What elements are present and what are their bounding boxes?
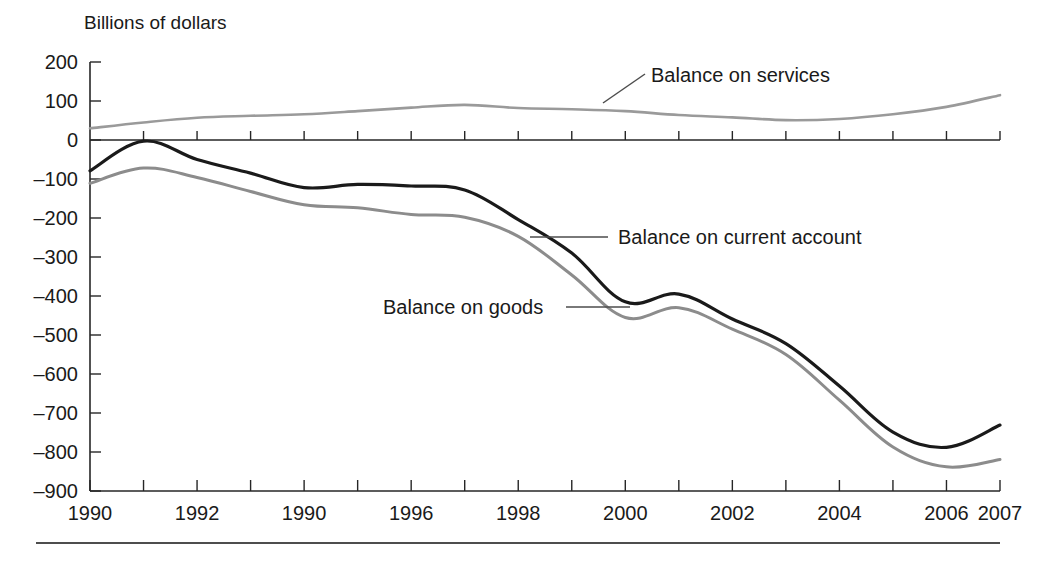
annotation-label-balance-on-current-account: Balance on current account xyxy=(618,226,862,248)
y-tick-label: –100 xyxy=(34,168,79,190)
annotation-label-balance-on-services: Balance on services xyxy=(651,64,830,86)
axis-title-group: Billions of dollars xyxy=(84,12,227,33)
x-tick-label: 1992 xyxy=(175,502,220,524)
y-tick-label: –400 xyxy=(34,285,79,307)
y-tick-label: –300 xyxy=(34,246,79,268)
x-tick-label: 2004 xyxy=(817,502,862,524)
y-tick-label: –600 xyxy=(34,363,79,385)
y-tick-label: 0 xyxy=(67,129,78,151)
data-series-group: Balance on servicesBalance on current ac… xyxy=(90,95,1000,467)
y-tick-label: –500 xyxy=(34,324,79,346)
annotation-label-balance-on-goods: Balance on goods xyxy=(383,296,543,318)
x-tick-label: 2007 xyxy=(978,502,1023,524)
annotation-leader-balance-on-services xyxy=(603,74,645,103)
y-tick-label: –800 xyxy=(34,441,79,463)
series-balance-on-goods: Balance on goods xyxy=(90,168,1000,467)
y-axis-title: Billions of dollars xyxy=(84,12,227,33)
x-axis-ticks: 1990199219901996199820002002200420062007 xyxy=(68,131,1023,524)
annotation-group: Balance on servicesBalance on current ac… xyxy=(383,64,862,318)
y-tick-label: –200 xyxy=(34,207,79,229)
y-axis-ticks: 2001000–100–200–300–400–500–600–700–800–… xyxy=(34,51,102,502)
y-tick-label: –700 xyxy=(34,402,79,424)
x-tick-label: 2002 xyxy=(710,502,755,524)
x-tick-label: 1990 xyxy=(68,502,113,524)
series-balance-on-services: Balance on services xyxy=(90,95,1000,128)
series-balance-on-current-account: Balance on current account xyxy=(90,141,1000,448)
x-tick-label: 1996 xyxy=(389,502,434,524)
x-tick-label: 2006 xyxy=(924,502,969,524)
chart-figure: Billions of dollars 2001000–100–200–300–… xyxy=(0,0,1037,566)
y-tick-label: 200 xyxy=(45,51,78,73)
balance-of-payments-line-chart: Billions of dollars 2001000–100–200–300–… xyxy=(0,0,1037,566)
x-tick-label: 2000 xyxy=(603,502,648,524)
x-tick-label: 1998 xyxy=(496,502,541,524)
y-tick-label: –900 xyxy=(34,480,79,502)
y-tick-label: 100 xyxy=(45,90,78,112)
axis-frame xyxy=(90,62,1000,491)
x-tick-label: 1990 xyxy=(282,502,327,524)
